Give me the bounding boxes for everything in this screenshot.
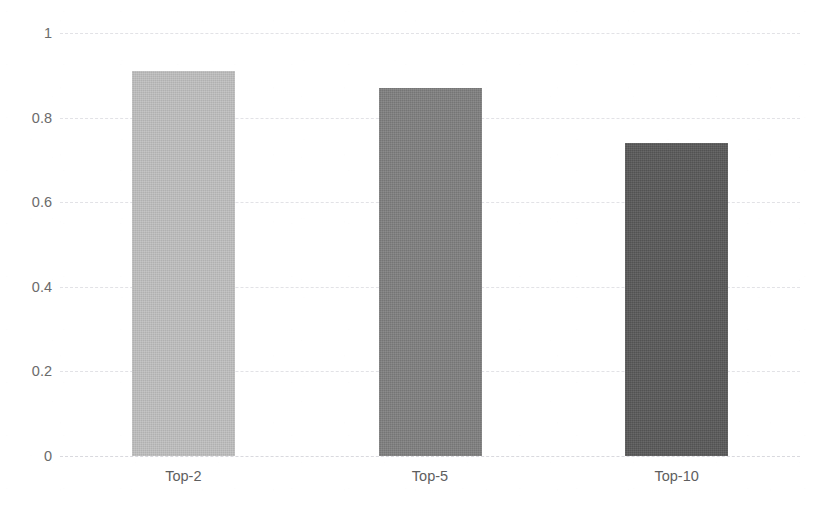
x-axis-tick-label: Top-5 (412, 468, 448, 484)
y-axis-tick-label: 0 (0, 448, 52, 464)
bar-series (60, 33, 800, 456)
gridline (60, 456, 800, 457)
x-axis-tick-label: Top-10 (654, 468, 698, 484)
x-axis-tick-label: Top-2 (165, 468, 201, 484)
y-axis-tick-label: 0.4 (0, 279, 52, 295)
plot-area (60, 33, 800, 456)
y-axis-tick-label: 0.2 (0, 363, 52, 379)
x-axis-labels: Top-2Top-5Top-10 (60, 468, 800, 492)
y-axis-tick-label: 0.8 (0, 110, 52, 126)
y-axis-tick-label: 0.6 (0, 194, 52, 210)
y-axis-tick-label: 1 (0, 25, 52, 41)
y-axis-labels: 10.80.60.40.20 (0, 33, 52, 456)
bar[interactable] (132, 71, 235, 456)
cropped-title-remnant: · (0, 0, 819, 7)
bar[interactable] (625, 143, 728, 456)
bar[interactable] (379, 88, 482, 456)
bar-chart-figure: · 10.80.60.40.20 Top-2Top-5Top-10 (0, 0, 819, 512)
